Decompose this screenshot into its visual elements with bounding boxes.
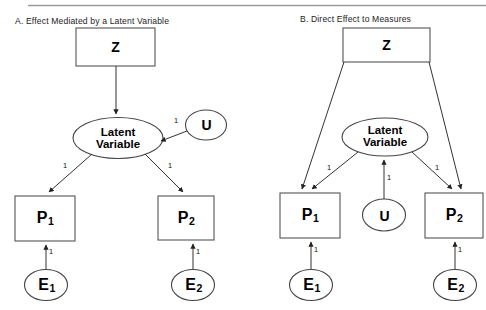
panel-a-edge-u-to-latent <box>161 131 187 141</box>
panel-b-u-ellipse <box>363 199 406 231</box>
panel-b-title: B. Direct Effect to Measures <box>300 14 411 24</box>
panel-b-edge-latent-to-p1 <box>312 152 358 189</box>
panel-a-e1-ellipse <box>25 270 68 301</box>
panel-a-z-box <box>76 28 155 66</box>
panel-a-u-ellipse <box>186 110 227 140</box>
panel-b-z-box <box>343 28 430 62</box>
panel-b-e2-ellipse <box>434 270 477 301</box>
panel-b-p2-box <box>425 193 483 238</box>
panel-b-p1-box <box>280 193 340 238</box>
panel-a-latent-ellipse <box>73 118 163 159</box>
panel-a-edge-latent-to-p2 <box>145 154 183 192</box>
panel-b-edge-z-to-p2 <box>429 62 461 189</box>
path-diagram-svg <box>0 0 486 310</box>
panel-a-p2-box <box>158 196 214 240</box>
panel-b-edge-z-to-p1 <box>302 62 344 189</box>
panel-a-title: A. Effect Mediated by a Latent Variable <box>15 16 169 26</box>
panel-a-edge-latent-to-p1 <box>49 154 92 192</box>
panel-b-edge-latent-to-p2 <box>412 152 452 189</box>
figure-canvas: A. Effect Mediated by a Latent Variable … <box>0 0 486 310</box>
panel-a-e2-ellipse <box>172 270 215 301</box>
panel-a-p1-box <box>15 196 75 241</box>
panel-b-latent-ellipse <box>342 118 428 156</box>
panel-b-e1-ellipse <box>290 270 333 301</box>
